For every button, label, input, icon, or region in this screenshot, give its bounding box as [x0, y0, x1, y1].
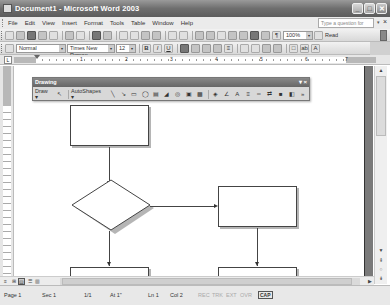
- insert-table-icon[interactable]: [217, 31, 226, 40]
- hyperlink-icon[interactable]: [195, 31, 204, 40]
- maximize-button[interactable]: □: [364, 3, 375, 14]
- align-left-icon[interactable]: [180, 44, 189, 53]
- email-icon[interactable]: [49, 31, 58, 40]
- bold-button[interactable]: B: [142, 44, 151, 53]
- flowchart-decision-diamond[interactable]: [71, 179, 155, 235]
- next-page-icon[interactable]: ⇟: [376, 274, 386, 282]
- research-icon[interactable]: [103, 31, 112, 40]
- align-right-icon[interactable]: [202, 44, 211, 53]
- style-combo[interactable]: Normal ▾: [16, 44, 66, 53]
- underline-button[interactable]: U: [164, 44, 173, 53]
- oval-tool-icon[interactable]: ◯: [141, 90, 150, 99]
- text-box-icon[interactable]: ▤: [152, 90, 161, 99]
- web-layout-icon[interactable]: ⊞: [10, 278, 17, 285]
- hscroll-thumb[interactable]: [62, 278, 352, 285]
- flowchart-box-top[interactable]: [70, 105, 149, 146]
- chevron-down-icon[interactable]: ▾: [299, 79, 302, 85]
- menu-format[interactable]: Format: [84, 20, 103, 26]
- wordart-icon[interactable]: ◢: [163, 90, 172, 99]
- connector-line[interactable]: [150, 206, 214, 207]
- picture-icon[interactable]: ▩: [195, 90, 204, 99]
- decrease-indent-icon[interactable]: [262, 44, 271, 53]
- insert-excel-icon[interactable]: [228, 31, 237, 40]
- menu-edit[interactable]: Edit: [25, 20, 35, 26]
- paste-icon[interactable]: [141, 31, 150, 40]
- fill-color-icon[interactable]: ◈: [211, 90, 220, 99]
- arrow-style-icon[interactable]: ⇄: [266, 90, 275, 99]
- permission-icon[interactable]: [38, 31, 47, 40]
- horizontal-scrollbar[interactable]: ≡ ⊞ ▤ ☰ ▥ ▶: [0, 276, 374, 285]
- justify-icon[interactable]: [213, 44, 222, 53]
- chevron-down-icon[interactable]: ▾: [108, 45, 114, 52]
- horizontal-ruler[interactable]: L 1 2 3 4 5 6 7: [0, 55, 390, 65]
- drawing-toolbar[interactable]: Drawing ▾ × Draw ▾ ↖ AutoShapes ▾ ╲ ↘ ▭ …: [32, 77, 310, 101]
- toolbar-grip[interactable]: [1, 44, 3, 53]
- normal-view-icon[interactable]: ≡: [2, 278, 9, 285]
- shadow-style-icon[interactable]: ■: [276, 90, 285, 99]
- connector-line[interactable]: [109, 231, 110, 266]
- drawing-toolbar-titlebar[interactable]: Drawing ▾ ×: [33, 78, 309, 87]
- toolbar-grip[interactable]: [1, 31, 3, 40]
- font-size-combo[interactable]: 12 ▾: [116, 44, 136, 53]
- browse-object-icon[interactable]: ○: [376, 265, 386, 273]
- scrollbar-thumb[interactable]: [376, 76, 386, 136]
- line-style-icon[interactable]: ≡: [244, 90, 253, 99]
- status-ovr[interactable]: OVR: [240, 292, 258, 298]
- print-preview-icon[interactable]: [76, 31, 85, 40]
- format-painter-icon[interactable]: [152, 31, 161, 40]
- tables-borders-icon[interactable]: [206, 31, 215, 40]
- new-document-icon[interactable]: [5, 31, 14, 40]
- numbering-icon[interactable]: [240, 44, 249, 53]
- flowchart-box-right[interactable]: [218, 186, 297, 227]
- chevron-down-icon[interactable]: ▾: [59, 45, 65, 52]
- status-rec[interactable]: REC: [198, 292, 212, 298]
- line-color-icon[interactable]: ∠: [222, 90, 231, 99]
- toolbar-options-icon[interactable]: [380, 30, 387, 41]
- help-icon[interactable]: [314, 31, 323, 40]
- connector-line[interactable]: [257, 228, 258, 266]
- font-color-icon[interactable]: A: [233, 90, 242, 99]
- scroll-up-icon[interactable]: ▲: [376, 66, 386, 74]
- draw-menu-button[interactable]: Draw ▾: [35, 88, 52, 100]
- bullets-icon[interactable]: [251, 44, 260, 53]
- increase-indent-icon[interactable]: [273, 44, 282, 53]
- line-tool-icon[interactable]: ╲: [108, 90, 117, 99]
- close-button[interactable]: ✕: [376, 3, 387, 14]
- chevron-down-icon[interactable]: ▾: [306, 32, 312, 39]
- menu-insert[interactable]: Insert: [62, 20, 77, 26]
- indent-marker[interactable]: [34, 55, 40, 64]
- chevron-down-icon[interactable]: ▾: [129, 45, 135, 52]
- hscroll-track[interactable]: [60, 278, 360, 285]
- document-close-button[interactable]: ×: [383, 18, 387, 25]
- minimize-button[interactable]: _: [352, 3, 363, 14]
- columns-icon[interactable]: [239, 31, 248, 40]
- outline-view-icon[interactable]: ☰: [26, 278, 33, 285]
- vertical-ruler[interactable]: [0, 66, 14, 276]
- font-color-icon[interactable]: A: [311, 44, 320, 53]
- menu-window[interactable]: Window: [152, 20, 173, 26]
- toolbar-options-icon[interactable]: »: [298, 90, 307, 99]
- open-icon[interactable]: [16, 31, 25, 40]
- undo-icon[interactable]: [168, 31, 177, 40]
- document-map-icon[interactable]: [261, 31, 270, 40]
- arrow-tool-icon[interactable]: ↘: [119, 90, 128, 99]
- line-spacing-icon[interactable]: ≡: [224, 44, 233, 53]
- vertical-scrollbar[interactable]: ▲ ▼ ⇞ ○ ⇟: [361, 66, 390, 284]
- menu-tools[interactable]: Tools: [110, 20, 124, 26]
- save-icon[interactable]: [27, 31, 36, 40]
- copy-icon[interactable]: [130, 31, 139, 40]
- help-dropdown-icon[interactable]: ▾: [377, 19, 380, 25]
- align-center-icon[interactable]: [191, 44, 200, 53]
- menu-view[interactable]: View: [42, 20, 55, 26]
- print-icon[interactable]: [65, 31, 74, 40]
- font-combo[interactable]: Times New Roman ▾: [67, 44, 115, 53]
- read-button[interactable]: Read: [325, 32, 338, 38]
- status-trk[interactable]: TRK: [212, 292, 226, 298]
- word-app-icon[interactable]: [3, 4, 12, 13]
- redo-icon[interactable]: [179, 31, 188, 40]
- scroll-right-icon[interactable]: ▶: [368, 278, 372, 284]
- cut-icon[interactable]: [119, 31, 128, 40]
- autoshapes-menu-button[interactable]: AutoShapes ▾: [71, 88, 105, 100]
- dash-style-icon[interactable]: ┅: [255, 90, 264, 99]
- menu-help[interactable]: Help: [181, 20, 193, 26]
